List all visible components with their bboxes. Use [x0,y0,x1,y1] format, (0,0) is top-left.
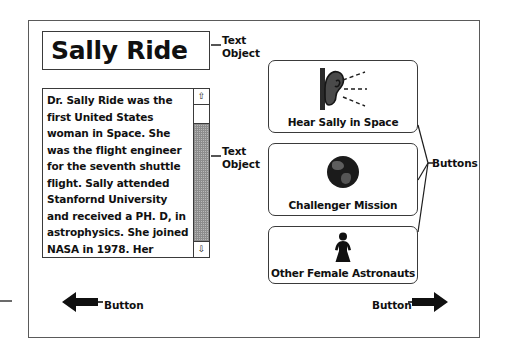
annotation-body-text-object: Text Object [222,145,260,170]
annotation-title-text-object: Text Object [222,34,260,59]
scrollbar-track[interactable] [194,105,209,241]
button-other-female-astronauts[interactable]: Other Female Astronauts [268,226,418,284]
button-label: Hear Sally in Space [288,117,399,129]
scroll-down-arrow-icon[interactable]: ⇩ [194,241,209,257]
female-figure-icon [269,227,417,268]
body-text-object[interactable]: Dr. Sally Ride was the first United Stat… [42,88,210,258]
globe-icon [269,144,417,200]
scrollbar[interactable]: ⇧ ⇩ [193,89,209,257]
annotation-back-button: Button [104,299,144,312]
annotation-buttons-group: Buttons [432,157,478,170]
ear-icon [269,61,417,117]
button-hear-sally-in-space[interactable]: Hear Sally in Space [268,60,418,133]
page-title: Sally Ride [43,38,188,63]
annotation-forward-button: Button [372,299,412,312]
button-label: Other Female Astronauts [271,268,415,280]
scrollbar-thumb[interactable] [194,105,209,124]
title-text-object[interactable]: Sally Ride [42,31,210,70]
scroll-up-arrow-icon[interactable]: ⇧ [194,89,209,105]
button-challenger-mission[interactable]: Challenger Mission [268,143,418,216]
button-label: Challenger Mission [289,200,398,212]
body-text: Dr. Sally Ride was the first United Stat… [43,89,193,257]
